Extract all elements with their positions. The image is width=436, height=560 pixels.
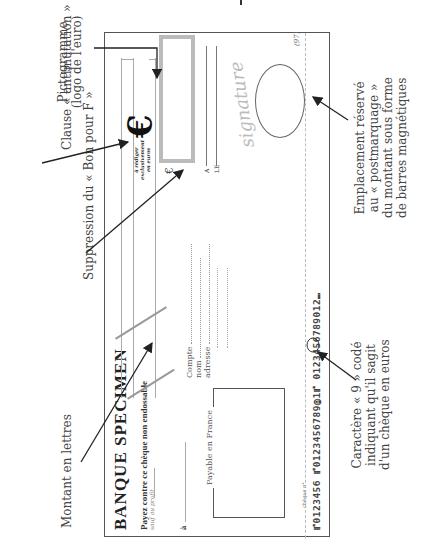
annotation-bon-pour: Suppression du « Bon pour F »	[82, 91, 96, 280]
address-line-2	[217, 268, 218, 348]
postmark-oval	[255, 64, 305, 138]
strike-slash-1	[115, 306, 167, 339]
cmc7-line: ⑈0123456 ⑈0123456789⓪1⑈ 0123456789012⑉	[311, 292, 322, 530]
address-line-3	[227, 268, 228, 348]
payee-label: à	[179, 525, 188, 530]
amount-words-bracket-2	[149, 59, 155, 60]
annotation-pictogramme: Pictogramme (logo de l'euro)	[56, 7, 84, 117]
euro-symbol-icon: €	[163, 167, 176, 174]
name-label: nom	[194, 360, 203, 378]
page-mark	[240, 0, 242, 5]
amount-words-line-2	[133, 58, 134, 398]
amount-figures-box	[159, 35, 195, 163]
annotation-montant-lettres: Montant en lettres	[60, 414, 74, 528]
payee-line	[185, 442, 186, 522]
payable-box	[213, 388, 285, 518]
account-block: Compte nom adresse	[185, 244, 212, 378]
amount-words-line-1	[121, 58, 122, 398]
address-label: adresse	[203, 347, 212, 378]
code-97: (97)	[293, 32, 301, 46]
euro-only-clause: à rédiger exclusivement en euros	[133, 140, 151, 180]
cheque-number-label: chèque n°	[301, 482, 307, 508]
date-line	[216, 46, 217, 166]
cheque-specimen: BANQUE SPECIMEN Payez contre ce chèque n…	[104, 32, 330, 537]
amount-words-bracket-1	[121, 59, 133, 60]
signature-watermark: signature	[225, 60, 258, 149]
account-label: Compte	[185, 346, 194, 378]
place-label: A	[203, 169, 210, 173]
strike-slash-2	[127, 369, 174, 399]
euro-logo-icon: €	[125, 114, 155, 138]
annotation-postmarquage: Emplacement réservé au « postmarquage » …	[353, 78, 409, 218]
place-line	[206, 46, 207, 166]
cheque-content: BANQUE SPECIMEN Payez contre ce chèque n…	[105, 33, 331, 538]
order-line	[154, 468, 155, 498]
annotation-caractere-9: Caractère « 9 » codé indiquant qu'il sag…	[350, 340, 392, 470]
magnetic-band-separator	[305, 33, 306, 538]
amount-words-line-3	[155, 58, 156, 398]
payable-label: Payable en France	[205, 407, 214, 488]
